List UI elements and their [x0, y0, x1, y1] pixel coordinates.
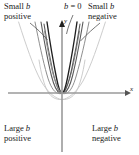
- leader-b-equals-zero: [67, 15, 74, 34]
- parabola-family-figure: Small b positive b = 0 Small b negative …: [0, 0, 139, 155]
- label-b-equals-zero: b = 0: [64, 2, 82, 12]
- label-large-b-positive-line1: Large: [4, 123, 26, 133]
- label-small-b-negative-line2: negative: [88, 12, 117, 22]
- leader-small-b-negative: [81, 23, 101, 41]
- label-large-b-negative: Large b negative: [92, 124, 121, 143]
- label-large-b-negative-line1: Large: [92, 123, 114, 133]
- label-large-b-negative-line2: negative: [92, 133, 121, 143]
- label-large-b-positive-line2: positive: [4, 133, 31, 143]
- label-large-b-negative-var: b: [114, 123, 118, 133]
- x-axis-label: x: [130, 85, 133, 93]
- label-large-b-positive-var: b: [26, 123, 30, 133]
- label-small-b-negative: Small b negative: [88, 2, 117, 21]
- label-b-equals-zero-value: = 0: [68, 1, 81, 11]
- label-small-b-positive-line2: positive: [4, 11, 31, 21]
- label-small-b-positive-var: b: [26, 1, 30, 11]
- y-axis-label: y: [64, 17, 67, 25]
- label-large-b-positive: Large b positive: [4, 124, 31, 143]
- label-small-b-positive: Small b positive: [4, 2, 31, 21]
- label-small-b-negative-line1: Small: [88, 1, 110, 11]
- label-small-b-negative-var: b: [110, 1, 114, 11]
- label-small-b-positive-line1: Small: [4, 1, 26, 11]
